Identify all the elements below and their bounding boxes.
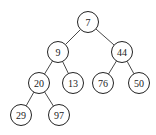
tree-edge-44-76 [108,61,116,74]
node-label: 20 [34,78,44,89]
tree-node-97: 97 [49,105,70,126]
tree-edge-9-20 [44,61,52,74]
tree-node-13: 13 [63,73,84,94]
tree-edge-9-13 [63,61,69,73]
tree-diagram: 7944201376502997 [0,0,156,135]
tree-edge-7-44 [96,29,114,45]
node-label: 76 [98,78,108,89]
tree-node-76: 76 [93,73,114,94]
node-label: 7 [86,17,91,28]
tree-edge-20-29 [26,92,34,106]
tree-node-7: 7 [78,12,99,33]
tree-edge-44-50 [127,61,134,74]
tree-nodes: 7944201376502997 [11,12,150,126]
node-label: 50 [134,78,144,89]
tree-edge-20-97 [45,92,54,106]
node-label: 13 [68,78,78,89]
tree-node-50: 50 [129,73,150,94]
tree-node-9: 9 [48,42,69,63]
node-label: 44 [117,47,127,58]
tree-edges [26,29,134,106]
tree-node-29: 29 [11,105,32,126]
node-label: 29 [16,110,26,121]
node-label: 97 [54,110,64,121]
tree-node-44: 44 [112,42,133,63]
tree-edge-7-9 [65,29,80,44]
node-label: 9 [56,47,61,58]
tree-node-20: 20 [29,73,50,94]
